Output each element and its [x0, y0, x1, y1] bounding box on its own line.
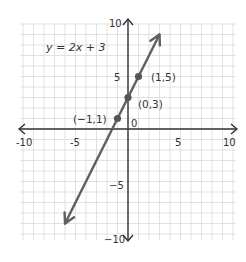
y-tick-label: 10 [109, 18, 122, 29]
x-tick-label: -5 [70, 137, 80, 148]
linear-function-chart: -10 -5 5 10 10 5 −5 −10 0 y = 2x + 3 (−1… [0, 0, 246, 262]
x-tick-label: 5 [175, 137, 181, 148]
point-label: (0,3) [138, 98, 163, 110]
x-tick-label: 10 [223, 137, 236, 148]
y-tick-label: 5 [114, 72, 120, 83]
origin-label: 0 [131, 118, 137, 129]
equation-label: y = 2x + 3 [45, 41, 105, 54]
data-point [124, 94, 131, 101]
chart-canvas: -10 -5 5 10 10 5 −5 −10 0 y = 2x + 3 (−1… [0, 0, 246, 262]
data-point [135, 73, 142, 80]
point-label: (−1,1) [73, 113, 107, 125]
data-point [114, 115, 121, 122]
point-label: (1,5) [151, 71, 176, 83]
y-tick-label: −10 [104, 234, 125, 245]
x-tick-label: -10 [16, 137, 32, 148]
y-tick-label: −5 [109, 180, 124, 191]
